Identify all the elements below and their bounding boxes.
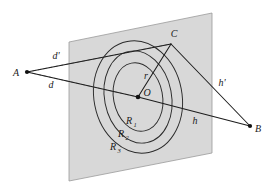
diagram-canvas: A B C O d' d h' h r R 1 R 2 R 3: [0, 0, 272, 190]
segment-label-d-prime: d': [52, 50, 60, 61]
point-C-label: C: [171, 28, 178, 39]
segment-label-r: r: [144, 70, 148, 81]
point-B-dot: [248, 124, 252, 128]
zone-label-R1: R: [125, 115, 132, 126]
point-O-dot: [136, 95, 141, 100]
fresnel-zone-figure: A B C O d' d h' h r R 1 R 2 R 3: [0, 0, 272, 190]
segment-label-h-prime: h': [218, 77, 226, 88]
zone-label-R1-subscript: 1: [133, 121, 136, 128]
point-A-dot: [25, 70, 29, 74]
zone-label-R2: R: [117, 128, 124, 139]
zone-label-R3: R: [109, 141, 116, 152]
point-O-label: O: [143, 87, 150, 98]
point-B-label: B: [255, 123, 261, 134]
segment-label-d: d: [49, 79, 55, 90]
segment-label-h: h: [193, 115, 198, 126]
obstruction-plane: [69, 13, 212, 181]
point-A-label: A: [12, 67, 20, 78]
